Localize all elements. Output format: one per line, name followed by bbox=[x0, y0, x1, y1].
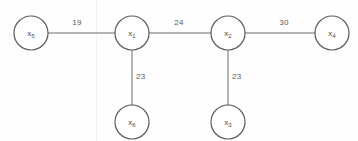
edge-labels-layer: 1924302323 bbox=[72, 18, 289, 81]
graph-figure: x5x1x2x4x6x3 1924302323 bbox=[0, 0, 358, 141]
node-x3[interactable]: x3 bbox=[211, 105, 245, 139]
nodes-layer: x5x1x2x4x6x3 bbox=[14, 16, 349, 139]
edge-weight-x2-x3: 23 bbox=[232, 72, 242, 81]
edge-weight-x5-x1: 19 bbox=[72, 18, 82, 27]
node-x4[interactable]: x4 bbox=[315, 16, 349, 50]
node-x6[interactable]: x6 bbox=[115, 105, 149, 139]
edge-weight-x1-x2: 24 bbox=[174, 18, 184, 27]
graph-canvas: x5x1x2x4x6x3 1924302323 bbox=[0, 0, 358, 141]
node-x5[interactable]: x5 bbox=[14, 16, 48, 50]
edges-layer bbox=[48, 33, 315, 105]
node-x1[interactable]: x1 bbox=[115, 16, 149, 50]
node-x2[interactable]: x2 bbox=[211, 16, 245, 50]
edge-weight-x1-x6: 23 bbox=[136, 72, 146, 81]
edge-weight-x2-x4: 30 bbox=[279, 18, 289, 27]
